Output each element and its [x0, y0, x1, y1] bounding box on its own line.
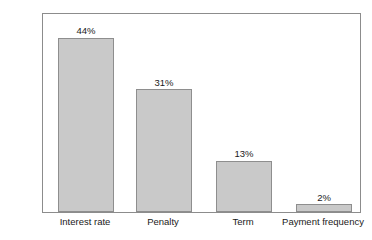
bar-group-interest-rate: 44%: [58, 14, 114, 212]
bar-value-label: 13%: [234, 148, 253, 159]
bar-payment-frequency[interactable]: [296, 204, 352, 212]
bar-chart: 0% 10% 20% 30% 40% 50% 44%: [0, 0, 372, 240]
bar-group-term: 13%: [216, 14, 272, 212]
x-axis: Interest rate Penalty Term Payment frequ…: [42, 213, 359, 239]
bar-value-label: 31%: [154, 77, 173, 88]
bar-value-label: 2%: [317, 192, 331, 203]
y-axis: 0% 10% 20% 30% 40% 50%: [0, 0, 42, 240]
bar-group-penalty: 31%: [136, 14, 192, 212]
bar-interest-rate[interactable]: [58, 38, 114, 212]
bar-value-label: 44%: [76, 25, 95, 36]
bar-group-payment-frequency: 2%: [296, 14, 352, 212]
plot-area: 44% 31% 13% 2%: [42, 13, 361, 213]
x-axis-category-payment-frequency: Payment frequency: [273, 215, 372, 228]
bar-penalty[interactable]: [136, 89, 192, 212]
bar-term[interactable]: [216, 161, 272, 213]
